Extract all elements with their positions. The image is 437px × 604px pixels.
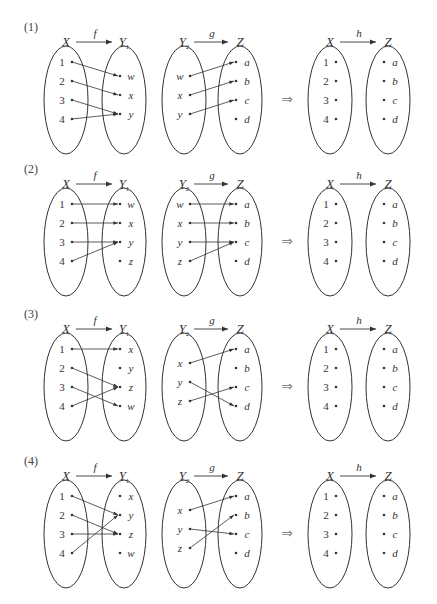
codomain-ellipse <box>218 480 262 588</box>
domain-ellipse <box>162 46 206 154</box>
point <box>383 222 386 225</box>
codomain-element: c <box>393 94 398 106</box>
codomain-set-label: Y1 <box>119 321 130 338</box>
function-f-diagram: XY1f1234xyzw <box>44 314 146 441</box>
point <box>235 367 238 370</box>
point <box>235 80 238 83</box>
function-h-diagram: XZh1234abcd <box>308 314 410 441</box>
codomain-element: b <box>392 217 398 229</box>
function-name: h <box>356 169 362 181</box>
function-name: h <box>356 461 362 473</box>
point <box>383 61 386 64</box>
function-name: g <box>209 461 215 473</box>
mapping-arrow <box>72 81 118 95</box>
mapping-arrow <box>190 81 234 95</box>
mapping-arrow <box>72 100 118 114</box>
function-h-diagram: XZh1234abcd <box>308 27 410 154</box>
codomain-element: d <box>244 547 250 559</box>
point <box>383 203 386 206</box>
domain-element: 4 <box>59 400 65 412</box>
codomain-ellipse <box>218 46 262 154</box>
domain-set-label: X <box>61 321 71 336</box>
implies-arrow-icon: ⇒ <box>281 525 293 541</box>
domain-element: 3 <box>323 528 329 540</box>
codomain-element: a <box>392 56 398 68</box>
codomain-element: a <box>244 343 250 355</box>
point <box>335 203 338 206</box>
domain-element: 3 <box>323 94 329 106</box>
domain-element: 4 <box>59 547 65 559</box>
arrowhead-icon <box>113 242 118 245</box>
point <box>383 80 386 83</box>
point <box>119 75 122 78</box>
domain-set-label: X <box>325 468 335 483</box>
point <box>235 118 238 121</box>
domain-element: 4 <box>323 255 329 267</box>
codomain-element: d <box>244 113 250 125</box>
point <box>335 533 338 536</box>
domain-element: 4 <box>59 255 65 267</box>
point <box>235 386 238 389</box>
domain-ellipse <box>44 46 88 154</box>
codomain-ellipse <box>366 333 410 441</box>
domain-set-label: X <box>325 176 335 191</box>
codomain-element: d <box>244 400 250 412</box>
arrowhead-icon <box>229 242 234 245</box>
mapping-arrow <box>72 114 118 119</box>
mapping-arrow <box>190 100 234 114</box>
function-name: f <box>93 169 98 181</box>
codomain-set-label: Y1 <box>119 468 130 485</box>
point <box>235 552 238 555</box>
implies-arrow-icon: ⇒ <box>281 91 293 107</box>
arrowhead-icon <box>229 515 234 519</box>
point <box>119 495 122 498</box>
codomain-element: y <box>128 509 134 521</box>
domain-element: y <box>177 108 183 120</box>
arrowhead-icon <box>106 182 112 187</box>
domain-element: 3 <box>59 528 65 540</box>
domain-element: 2 <box>323 75 329 87</box>
codomain-element: b <box>392 509 398 521</box>
arrowhead-icon <box>229 202 234 205</box>
point <box>119 222 122 225</box>
codomain-set-label: Z <box>384 321 392 336</box>
arrowhead-icon <box>229 496 234 499</box>
point <box>119 367 122 370</box>
domain-ellipse <box>308 188 352 296</box>
domain-element: 1 <box>59 490 65 502</box>
codomain-element: x <box>128 217 134 229</box>
codomain-element: x <box>128 89 134 101</box>
function-h-diagram: XZh1234abcd <box>308 461 410 588</box>
domain-element: 1 <box>323 56 329 68</box>
arrowhead-icon <box>222 327 228 332</box>
domain-element: z <box>177 255 183 267</box>
domain-set-label: X <box>61 176 71 191</box>
codomain-element: a <box>244 198 250 210</box>
point <box>335 222 338 225</box>
point <box>383 514 386 517</box>
codomain-set-label: Z <box>236 34 244 49</box>
point <box>119 533 122 536</box>
implies-arrow-icon: ⇒ <box>281 233 293 249</box>
point <box>335 367 338 370</box>
arrowhead-icon <box>370 474 376 479</box>
problem-panel-3: (3)XY1f1234xyzwY2Zgxyzabcd⇒XZh1234abcd <box>0 305 437 455</box>
arrowhead-icon <box>229 81 234 84</box>
codomain-element: b <box>244 362 250 374</box>
arrowhead-icon <box>113 221 118 224</box>
point <box>119 514 122 517</box>
domain-element: 4 <box>323 113 329 125</box>
domain-element: x <box>177 504 183 516</box>
domain-element: z <box>177 395 183 407</box>
mapping-arrow <box>72 496 118 515</box>
point <box>119 405 122 408</box>
codomain-element: z <box>128 381 134 393</box>
domain-element: y <box>177 236 183 248</box>
point <box>119 113 122 116</box>
codomain-element: w <box>127 400 135 412</box>
function-name: g <box>209 169 215 181</box>
point <box>335 80 338 83</box>
domain-set-label: Y2 <box>179 176 190 193</box>
domain-element: 4 <box>59 113 65 125</box>
codomain-ellipse <box>366 46 410 154</box>
